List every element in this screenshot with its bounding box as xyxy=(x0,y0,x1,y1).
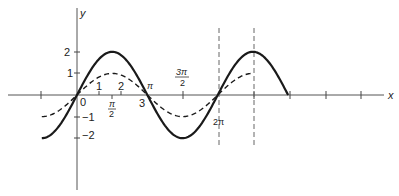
svg-text:π: π xyxy=(109,99,116,109)
x-label-0: 0 xyxy=(80,96,86,108)
x-label-pi: π xyxy=(147,81,154,91)
x-label-pi-over-2: π 2 xyxy=(108,99,116,119)
svg-text:2: 2 xyxy=(109,109,114,119)
svg-text:2: 2 xyxy=(180,78,185,88)
y-label-2: 2 xyxy=(64,46,70,58)
x-label-3pi-over-2: 3π 2 xyxy=(175,67,189,88)
y-axis-label: y xyxy=(79,7,87,19)
x-label-2pi: 2π xyxy=(213,117,224,127)
svg-text:3π: 3π xyxy=(176,67,188,77)
x-label-1: 1 xyxy=(96,80,102,92)
sine-plot: x y 2 1 −1 −2 0 1 2 3 π π 2 3π 2 2π xyxy=(0,0,399,196)
y-label-neg2: −2 xyxy=(82,129,95,141)
x-label-3: 3 xyxy=(139,97,145,109)
y-label-1: 1 xyxy=(67,67,73,79)
x-axis-label: x xyxy=(387,89,394,101)
y-label-neg1: −1 xyxy=(82,111,95,123)
x-label-2: 2 xyxy=(118,80,124,92)
